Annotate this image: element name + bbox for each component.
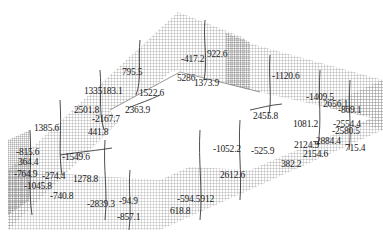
- value-label: 795.5: [122, 68, 142, 78]
- wall-mesh-figure: [0, 0, 383, 244]
- value-label: -869.1: [338, 106, 361, 116]
- value-label: -2839.3: [87, 200, 115, 210]
- value-label: -1120.6: [272, 72, 300, 82]
- value-label: -94.9: [119, 197, 138, 207]
- value-label: 364.4: [18, 158, 38, 168]
- value-label: 2612.6: [220, 171, 245, 181]
- value-label: -1045.8: [24, 182, 52, 192]
- value-label: 2455.8: [253, 112, 278, 122]
- value-label: 441.8: [88, 128, 108, 138]
- value-label: 715.4: [345, 144, 365, 154]
- value-label: -2167.7: [92, 115, 120, 125]
- value-label: 2363.9: [125, 106, 150, 116]
- value-label: 5286: [177, 74, 195, 84]
- value-label: 1335183.1: [84, 87, 123, 97]
- value-label: 618.8: [170, 207, 190, 217]
- value-label: 1522.6: [139, 89, 164, 99]
- value-label: 2154.6: [303, 150, 328, 160]
- value-label: -1052.2: [213, 145, 241, 155]
- value-label: -857.1: [117, 213, 140, 223]
- value-label: -594.5912: [177, 195, 214, 205]
- value-label: 1278.8: [73, 175, 98, 185]
- value-label: 922.6: [207, 50, 227, 60]
- value-label: -1549.6: [62, 153, 90, 163]
- value-label: 1373.9: [194, 79, 219, 89]
- value-label: -740.8: [50, 192, 73, 202]
- value-label: -525.9: [251, 147, 274, 157]
- value-label: 1081.2: [293, 120, 318, 130]
- value-label: 382.2: [281, 160, 301, 170]
- value-label: -764.9: [14, 170, 37, 180]
- value-label: -417.2: [181, 55, 204, 65]
- value-label: 1385.6: [34, 124, 59, 134]
- value-label: -2884.4: [313, 137, 341, 147]
